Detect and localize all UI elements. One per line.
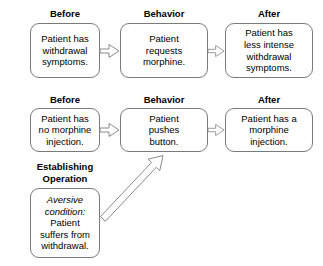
row2-after-box: Patient has a morphine injection. (225, 108, 313, 152)
row1-behavior-text: Patient requests morphine. (140, 33, 188, 68)
row1-after-box: Patient has less intense withdrawal symp… (225, 23, 313, 78)
row1-before-box: Patient has withdrawal symptoms. (30, 23, 100, 78)
contingency-diagram: Before Behavior After Patient has withdr… (0, 0, 323, 266)
row1-before-label: Before (30, 8, 100, 19)
arrow-row2-behavior-to-after (208, 122, 225, 138)
row1-after-text: Patient has less intense withdrawal symp… (241, 27, 297, 73)
row1-behavior-label: Behavior (120, 8, 208, 19)
row1-before-text: Patient has withdrawal symptoms. (38, 33, 92, 68)
row2-before-text: Patient has no morphine injection. (36, 113, 95, 148)
arrow-row1-behavior-to-after (208, 43, 225, 59)
row2-after-text: Patient has a morphine injection. (238, 113, 299, 148)
row2-before-label: Before (30, 94, 100, 105)
arrow-row1-before-to-behavior (100, 43, 120, 59)
row2-behavior-label: Behavior (120, 94, 208, 105)
establishing-operation-text: Aversive condition:Patient suffers from … (37, 194, 93, 252)
row2-behavior-text: Patient pushes button. (146, 113, 183, 148)
establishing-operation-label: Establishing Operation (29, 161, 101, 184)
establishing-operation-body-text: Patient suffers from withdrawal. (40, 217, 90, 251)
row2-after-label: After (225, 94, 313, 105)
establishing-operation-box: Aversive condition:Patient suffers from … (30, 188, 100, 258)
row2-behavior-box: Patient pushes button. (120, 108, 208, 152)
row2-before-box: Patient has no morphine injection. (30, 108, 100, 152)
row1-behavior-box: Patient requests morphine. (120, 23, 208, 78)
establishing-operation-italic-text: Aversive condition: (40, 194, 90, 217)
arrow-row2-before-to-behavior (100, 122, 120, 138)
row1-after-label: After (225, 8, 313, 19)
